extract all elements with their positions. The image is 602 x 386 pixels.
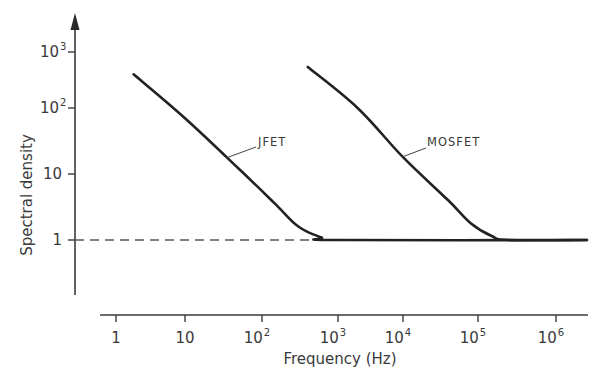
mosfet-label: MOSFET xyxy=(427,135,480,149)
jfet-leader-line xyxy=(226,147,256,158)
mosfet-leader-line xyxy=(402,148,426,157)
y-tick-label: 10 xyxy=(43,165,62,183)
mosfet-curve xyxy=(308,67,587,240)
jfet-curve xyxy=(134,74,587,240)
x-tick-label: 105 xyxy=(460,327,486,347)
x-axis-ticks: 110102103104105106 xyxy=(111,315,564,347)
x-tick-label: 1 xyxy=(111,329,121,347)
spectral-density-chart: 110102103 110102103104105106 Spectral de… xyxy=(0,0,602,386)
jfet-label: JFET xyxy=(257,135,286,149)
x-tick-label: 102 xyxy=(244,327,270,347)
x-axis-title: Frequency (Hz) xyxy=(283,350,396,368)
x-tick-label: 10 xyxy=(175,329,194,347)
y-tick-label: 103 xyxy=(40,41,66,61)
y-axis-title: Spectral density xyxy=(18,134,36,256)
y-tick-label: 1 xyxy=(52,231,62,249)
x-tick-label: 106 xyxy=(538,327,564,347)
x-tick-label: 103 xyxy=(320,327,346,347)
x-tick-label: 104 xyxy=(385,327,411,347)
y-axis-arrow-icon xyxy=(71,13,80,30)
y-tick-label: 102 xyxy=(40,97,66,117)
y-axis-ticks: 110102103 xyxy=(40,41,75,249)
